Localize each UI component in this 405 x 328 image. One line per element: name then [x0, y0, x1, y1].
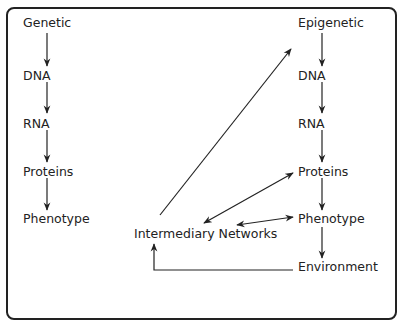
node-phenotype-left: Phenotype [23, 212, 90, 226]
node-environment: Environment [298, 260, 378, 274]
node-genetic: Genetic [23, 16, 71, 30]
node-phenotype-right: Phenotype [298, 212, 365, 226]
node-proteins-left: Proteins [23, 165, 73, 179]
node-rna-right: RNA [298, 117, 325, 131]
node-dna-left: DNA [23, 69, 51, 83]
node-rna-left: RNA [23, 117, 50, 131]
node-dna-right: DNA [298, 69, 326, 83]
node-proteins-right: Proteins [298, 165, 348, 179]
node-epigenetic: Epigenetic [298, 16, 364, 30]
node-intermediary-networks: Intermediary Networks [134, 227, 277, 241]
